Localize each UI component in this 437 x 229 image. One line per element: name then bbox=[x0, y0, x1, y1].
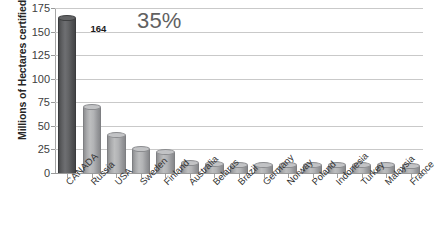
y-tick-label: 25 bbox=[24, 144, 50, 155]
bar-canada[interactable] bbox=[58, 18, 76, 173]
y-tick-label: 125 bbox=[24, 50, 50, 61]
bar-body bbox=[58, 18, 76, 173]
y-tick-label: 150 bbox=[24, 27, 50, 38]
y-tick-label: 50 bbox=[24, 121, 50, 132]
y-axis-tick-labels: 0255075100125150175 bbox=[22, 0, 50, 229]
y-tick-label: 100 bbox=[24, 74, 50, 85]
y-tick-label: 0 bbox=[24, 168, 50, 179]
plot-area bbox=[55, 8, 423, 174]
data-label-canada: 164 bbox=[91, 23, 107, 34]
annotation-percent: 35% bbox=[137, 8, 182, 34]
bars-group bbox=[55, 8, 423, 174]
y-tick-label: 75 bbox=[24, 97, 50, 108]
bar-top-ellipse bbox=[83, 104, 101, 110]
y-tick-label: 175 bbox=[24, 3, 50, 14]
bar-top-ellipse bbox=[132, 146, 150, 152]
